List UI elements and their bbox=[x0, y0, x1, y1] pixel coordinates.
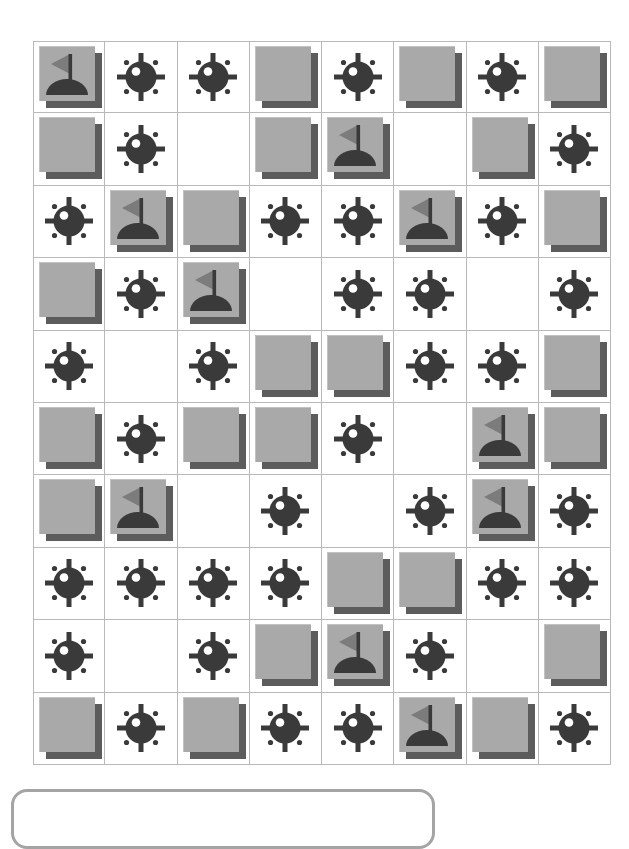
board-cell[interactable] bbox=[250, 41, 322, 113]
covered-tile[interactable] bbox=[39, 479, 95, 534]
board-cell[interactable] bbox=[467, 331, 539, 403]
board-cell[interactable] bbox=[394, 693, 466, 765]
status-panel[interactable] bbox=[11, 789, 435, 849]
board-cell[interactable] bbox=[33, 620, 105, 692]
covered-tile[interactable] bbox=[327, 335, 383, 390]
board-cell[interactable] bbox=[33, 693, 105, 765]
board-cell[interactable] bbox=[322, 186, 394, 258]
board-cell[interactable] bbox=[467, 548, 539, 620]
board-cell[interactable] bbox=[105, 41, 177, 113]
board-cell[interactable] bbox=[250, 186, 322, 258]
board-cell[interactable] bbox=[33, 41, 105, 113]
board-cell[interactable] bbox=[178, 331, 250, 403]
board-cell[interactable] bbox=[105, 331, 177, 403]
board-cell[interactable] bbox=[178, 258, 250, 330]
board-cell[interactable] bbox=[394, 548, 466, 620]
board-cell[interactable] bbox=[539, 258, 611, 330]
board-cell[interactable] bbox=[467, 186, 539, 258]
board-cell[interactable] bbox=[178, 620, 250, 692]
board-cell[interactable] bbox=[322, 113, 394, 185]
covered-tile[interactable] bbox=[544, 335, 600, 390]
board-cell[interactable] bbox=[322, 620, 394, 692]
board-cell[interactable] bbox=[394, 331, 466, 403]
board-cell[interactable] bbox=[250, 693, 322, 765]
covered-tile[interactable] bbox=[255, 407, 311, 462]
board-cell[interactable] bbox=[105, 475, 177, 547]
board-cell[interactable] bbox=[467, 475, 539, 547]
board-cell[interactable] bbox=[322, 403, 394, 475]
covered-tile[interactable] bbox=[544, 46, 600, 101]
board-cell[interactable] bbox=[467, 258, 539, 330]
covered-tile[interactable] bbox=[472, 697, 528, 752]
board-cell[interactable] bbox=[322, 693, 394, 765]
board-cell[interactable] bbox=[394, 258, 466, 330]
board-cell[interactable] bbox=[539, 475, 611, 547]
board-cell[interactable] bbox=[322, 475, 394, 547]
board-cell[interactable] bbox=[467, 113, 539, 185]
board-cell[interactable] bbox=[178, 548, 250, 620]
board-cell[interactable] bbox=[178, 113, 250, 185]
board-cell[interactable] bbox=[539, 41, 611, 113]
board-cell[interactable] bbox=[33, 258, 105, 330]
board-cell[interactable] bbox=[250, 113, 322, 185]
board-cell[interactable] bbox=[105, 620, 177, 692]
board-cell[interactable] bbox=[539, 331, 611, 403]
board-cell[interactable] bbox=[250, 331, 322, 403]
board-cell[interactable] bbox=[105, 693, 177, 765]
board-cell[interactable] bbox=[178, 693, 250, 765]
covered-tile[interactable] bbox=[544, 407, 600, 462]
board-cell[interactable] bbox=[178, 41, 250, 113]
board-cell[interactable] bbox=[105, 403, 177, 475]
board-cell[interactable] bbox=[539, 403, 611, 475]
board-cell[interactable] bbox=[539, 113, 611, 185]
board-cell[interactable] bbox=[250, 403, 322, 475]
covered-tile[interactable] bbox=[39, 262, 95, 317]
covered-tile[interactable] bbox=[255, 46, 311, 101]
covered-tile[interactable] bbox=[39, 117, 95, 172]
board-cell[interactable] bbox=[539, 186, 611, 258]
covered-tile[interactable] bbox=[327, 552, 383, 607]
board-cell[interactable] bbox=[467, 41, 539, 113]
covered-tile[interactable] bbox=[255, 335, 311, 390]
board-cell[interactable] bbox=[322, 41, 394, 113]
covered-tile[interactable] bbox=[255, 117, 311, 172]
covered-tile[interactable] bbox=[39, 407, 95, 462]
board-cell[interactable] bbox=[322, 331, 394, 403]
board-cell[interactable] bbox=[539, 620, 611, 692]
board-cell[interactable] bbox=[178, 403, 250, 475]
board-cell[interactable] bbox=[250, 620, 322, 692]
covered-tile[interactable] bbox=[183, 407, 239, 462]
board-cell[interactable] bbox=[33, 113, 105, 185]
board-cell[interactable] bbox=[322, 258, 394, 330]
board-cell[interactable] bbox=[467, 620, 539, 692]
covered-tile[interactable] bbox=[544, 190, 600, 245]
board-cell[interactable] bbox=[467, 693, 539, 765]
board-cell[interactable] bbox=[467, 403, 539, 475]
board-cell[interactable] bbox=[539, 548, 611, 620]
covered-tile[interactable] bbox=[39, 697, 95, 752]
covered-tile[interactable] bbox=[183, 697, 239, 752]
minesweeper-board[interactable] bbox=[33, 41, 611, 765]
board-cell[interactable] bbox=[394, 186, 466, 258]
board-cell[interactable] bbox=[178, 475, 250, 547]
board-cell[interactable] bbox=[105, 113, 177, 185]
board-cell[interactable] bbox=[33, 475, 105, 547]
board-cell[interactable] bbox=[105, 548, 177, 620]
board-cell[interactable] bbox=[394, 41, 466, 113]
covered-tile[interactable] bbox=[255, 624, 311, 679]
covered-tile[interactable] bbox=[472, 117, 528, 172]
board-cell[interactable] bbox=[394, 113, 466, 185]
board-cell[interactable] bbox=[394, 620, 466, 692]
covered-tile[interactable] bbox=[183, 190, 239, 245]
board-cell[interactable] bbox=[539, 693, 611, 765]
board-cell[interactable] bbox=[394, 475, 466, 547]
covered-tile[interactable] bbox=[399, 552, 455, 607]
board-cell[interactable] bbox=[105, 258, 177, 330]
board-cell[interactable] bbox=[105, 186, 177, 258]
covered-tile[interactable] bbox=[399, 46, 455, 101]
board-cell[interactable] bbox=[322, 548, 394, 620]
board-cell[interactable] bbox=[33, 331, 105, 403]
board-cell[interactable] bbox=[250, 548, 322, 620]
board-cell[interactable] bbox=[178, 186, 250, 258]
board-cell[interactable] bbox=[33, 403, 105, 475]
